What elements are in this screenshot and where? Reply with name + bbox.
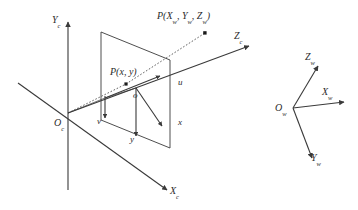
world-origin-label: Ow bbox=[275, 103, 287, 116]
world-point-label: P(Xw, Yw, Zw) bbox=[157, 11, 210, 24]
pixel-u-axis-label: u bbox=[178, 78, 183, 87]
camera-origin-label: Oc bbox=[54, 118, 64, 131]
projected-point-marker bbox=[124, 82, 127, 85]
camera-y-axis-label: Yc bbox=[52, 15, 60, 28]
world-x-axis-label: Xw bbox=[322, 87, 332, 100]
image-y-axis-label: y bbox=[130, 135, 134, 144]
world-y-axis-label: Yw bbox=[311, 153, 321, 166]
image-plane-inner-edge bbox=[105, 88, 136, 98]
world-z-axis-label: Zw bbox=[305, 52, 315, 65]
pixel-v-axis-label: v bbox=[97, 117, 101, 126]
world-x-axis bbox=[293, 102, 344, 108]
world-point-marker bbox=[203, 31, 206, 34]
image-origin-label: o bbox=[133, 91, 138, 100]
camera-x-axis bbox=[18, 83, 167, 190]
image-x-axis bbox=[136, 88, 162, 126]
world-y-axis bbox=[293, 108, 312, 158]
diagram-vector-graphics bbox=[0, 0, 358, 210]
principal-ray bbox=[68, 98, 105, 113]
camera-z-axis bbox=[68, 46, 249, 113]
world-z-axis bbox=[293, 66, 318, 108]
camera-z-axis-label: Zc bbox=[234, 31, 242, 44]
camera-x-axis-label: Xc bbox=[170, 186, 179, 199]
image-x-axis-label: x bbox=[178, 118, 182, 127]
camera-projection-diagram: Yc Xc Zc Oc P(Xw, Yw, Zw) P(x, y) v u o … bbox=[0, 0, 358, 210]
projected-point-label: P(x, y) bbox=[110, 67, 137, 77]
